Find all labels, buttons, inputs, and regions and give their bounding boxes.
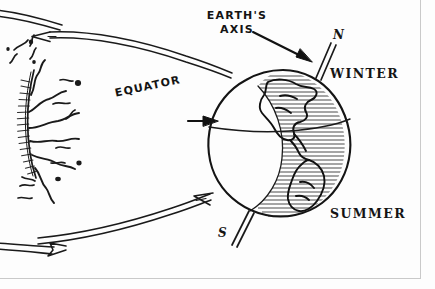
frame-border-bottom	[0, 278, 421, 279]
arrow-top-left-tail	[0, 10, 62, 30]
arrow-top-toward-sun	[32, 32, 232, 78]
frame-border-right	[420, 0, 421, 279]
label-north-pole: N	[333, 29, 344, 41]
label-earths-axis-line1: EARTH'S	[207, 9, 267, 22]
label-winter: WINTER	[330, 68, 399, 81]
label-summer: SUMMER	[330, 208, 406, 221]
label-earths-axis-line2: AXIS	[193, 24, 281, 35]
sun-flare-fragments	[10, 35, 75, 199]
arrow-bottom-left	[0, 243, 66, 256]
hand-drawn-figure	[0, 0, 435, 289]
arrow-pointer-axis	[253, 32, 312, 62]
diagram-page: EARTH'S AXIS EQUATOR WINTER SUMMER N S	[0, 0, 435, 289]
label-earths-axis: EARTH'S AXIS	[193, 10, 281, 35]
earth-globe	[208, 70, 360, 217]
sun	[6, 35, 81, 203]
label-south-pole: S	[218, 227, 227, 239]
arrow-bottom-away-from-sun	[38, 193, 213, 244]
